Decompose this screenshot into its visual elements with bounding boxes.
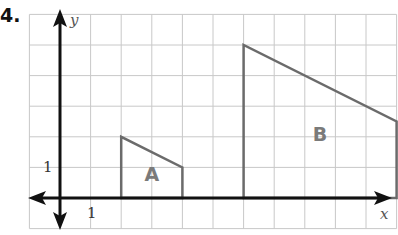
y-axis-label: y	[69, 11, 79, 29]
axes	[28, 9, 392, 230]
shape-b	[244, 45, 397, 198]
shapes: AB	[121, 45, 396, 198]
shape-label-b: B	[313, 123, 327, 145]
x-tick-label: 1	[87, 204, 97, 222]
shape-label-a: A	[144, 163, 159, 185]
y-tick-label: 1	[43, 158, 53, 176]
coordinate-grid-diagram: AB y x 1 1	[0, 0, 398, 235]
x-axis-label: x	[380, 205, 389, 223]
grid-lines	[29, 14, 396, 228]
